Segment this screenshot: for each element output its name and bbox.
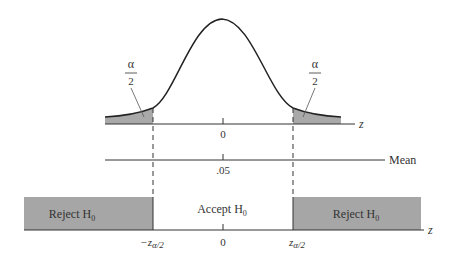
- top-center-tick-label: 0: [220, 128, 226, 140]
- bottom-center-tick-label: 0: [220, 236, 226, 248]
- top-axis-label: z: [358, 117, 364, 131]
- left-critical-label: −zα/2: [140, 236, 164, 250]
- mean-center-tick-label: .05: [216, 164, 230, 176]
- right-critical-label: zα/2: [288, 236, 306, 250]
- right-alpha-num: α: [312, 57, 319, 71]
- left-alpha-den: 2: [128, 75, 134, 87]
- accept-label: Accept H0: [197, 202, 247, 218]
- normal-curve: [105, 19, 341, 117]
- hypothesis-test-diagram: z 0 α 2 α 2 Mean .05 z Reject H0 Accept …: [0, 0, 453, 263]
- right-reject-label: Reject H0: [333, 207, 379, 223]
- bottom-axis-label: z: [427, 223, 433, 237]
- left-alpha-num: α: [128, 57, 135, 71]
- left-reject-label: Reject H0: [49, 207, 95, 223]
- mean-axis-label: Mean: [389, 153, 416, 167]
- right-alpha-den: 2: [312, 75, 318, 87]
